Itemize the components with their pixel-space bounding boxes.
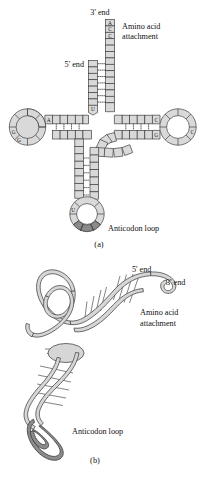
anticodon-stem-left-nt — [75, 183, 84, 190]
base-letter-c2: C — [108, 33, 112, 39]
d-stem-top-nt — [68, 115, 76, 124]
acceptor-3p-nt — [106, 39, 115, 45]
t-stem-bottom-nt — [122, 130, 130, 139]
anticodon-stem-left-nt — [75, 146, 84, 153]
d-stem-top-nt — [53, 115, 61, 124]
acceptor-3p-nt — [106, 90, 115, 96]
base-letter-a-dloop: A — [47, 117, 51, 123]
t-stem-bottom-nt — [137, 130, 145, 139]
d-stem-bottom-nt — [60, 130, 68, 139]
anticodon-stem-left-nt — [75, 191, 84, 198]
acceptor-5p-nt — [89, 80, 98, 86]
t-stem-top-nt — [130, 115, 138, 124]
acceptor-3p-nt — [106, 64, 115, 70]
anticodon-stem-left-nt — [75, 169, 84, 176]
t-stem-top-nt — [145, 115, 153, 124]
trna-figure-svg: .nt { fill:#d9d9d9; stroke:#3f3f3f; stro… — [0, 0, 206, 479]
base-letter-g-dloop-2: G — [17, 137, 21, 143]
acceptor-5p-nt — [89, 99, 98, 105]
label-anticodon-loop-a: Anticodon loop — [108, 224, 159, 233]
acceptor-5p-nt — [89, 93, 98, 99]
label-five-prime-end-a: 5' end — [65, 60, 84, 69]
t-loop — [160, 109, 196, 145]
base-letter-c1: C — [108, 26, 112, 32]
anticodon-stem-left-nt — [75, 154, 84, 161]
label-three-prime-end-a: 3' end — [90, 8, 109, 17]
label-anticodon-loop-b: Anticodon loop — [72, 427, 123, 436]
acceptor-3p-nt — [106, 45, 115, 51]
base-letter-c-tloop-2: C — [190, 129, 194, 135]
anticodon-stem-right-top — [90, 147, 99, 154]
t-stem-bottom-nt — [130, 130, 138, 139]
t-stem-top-nt — [122, 115, 130, 124]
acceptor-5p-nt — [89, 67, 98, 73]
d-stem-bottom-corner — [83, 130, 92, 139]
anticodon-stem-left-nt — [75, 161, 84, 168]
d-loop — [9, 109, 45, 145]
acceptor-5p-nt — [89, 73, 98, 79]
label-five-prime-end-b: 5' end — [132, 265, 151, 274]
trna-figure: .nt { fill:#d9d9d9; stroke:#3f3f3f; stro… — [0, 0, 206, 479]
acceptor-3p-nt — [106, 58, 115, 64]
t-stem-top-nt — [137, 115, 145, 124]
variable-loop-nt — [104, 148, 113, 157]
acceptor-3p-nt — [106, 96, 115, 102]
label-amino-acid-line1-b: Amino acid — [140, 308, 178, 317]
anticodon-loop — [70, 197, 104, 232]
anticodon-stem-left-nt — [75, 139, 84, 146]
anticodon-stem-right-nt — [90, 184, 99, 191]
acceptor-3p-nt — [106, 84, 115, 90]
acceptor-3p-nt — [106, 71, 115, 77]
acceptor-3p-nt — [106, 52, 115, 58]
base-letter-u-acceptor: U — [91, 106, 95, 112]
label-amino-acid-line1-a: Amino acid — [122, 22, 160, 31]
base-letter-a: A — [108, 20, 112, 26]
t-stem-bottom-nt — [145, 130, 153, 139]
label-amino-acid-line2-b: attachment — [140, 319, 177, 328]
base-letter-c-tloop-1: C — [154, 117, 158, 123]
variable-loop-nt — [113, 148, 123, 158]
base-letter-g-dloop-1: G — [12, 129, 16, 135]
acceptor-3p-nt — [106, 77, 115, 83]
d-stem-top-nt — [60, 115, 68, 124]
label-amino-acid-line2-a: attachment — [122, 32, 159, 41]
anticodon-stem-right-nt — [90, 155, 99, 162]
t-stem-top-corner — [114, 115, 122, 124]
anticodon-stem-right-nt — [90, 162, 99, 169]
acceptor-5p-nt — [89, 86, 98, 92]
d-stem-bottom-nt — [68, 130, 76, 139]
base-letter-u-anticodon: U — [71, 207, 75, 213]
base-letter-g-tloop: G — [154, 132, 158, 138]
anticodon-stem-right-nt — [90, 170, 99, 177]
label-three-prime-end-b: 3' end — [166, 278, 185, 287]
d-stem-bottom-nt — [75, 130, 83, 139]
d-stem-top-nt — [75, 115, 83, 124]
panel-caption-b: (b) — [90, 456, 100, 465]
d-stem-bottom-nt — [53, 130, 61, 139]
acceptor-5p-nt — [89, 61, 98, 67]
acceptor-3p-elbow — [106, 103, 115, 112]
anticodon-stem-right-nt — [90, 177, 99, 184]
panel-caption-a: (a) — [94, 240, 104, 249]
d-stem-corner — [83, 115, 89, 124]
anticodon-stem-left-nt — [75, 176, 84, 183]
